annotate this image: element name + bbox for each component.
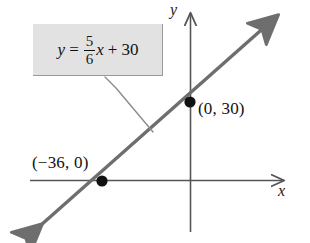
graph-figure: y = 5 6 x + 30 y x (0, 30) (−36, 0) bbox=[0, 0, 310, 243]
point-dot-y-intercept bbox=[184, 96, 195, 107]
point-label-y-intercept: (0, 30) bbox=[198, 100, 245, 117]
point-dot-x-intercept bbox=[96, 175, 107, 186]
fraction-denominator: 6 bbox=[84, 51, 96, 67]
callout-leader-line bbox=[105, 77, 153, 132]
equation-variable: x bbox=[96, 40, 104, 60]
equation-plus-sign: + bbox=[108, 40, 118, 60]
equation-fraction: 5 6 bbox=[84, 34, 96, 67]
point-label-x-intercept: (−36, 0) bbox=[32, 154, 89, 171]
equation-lhs: y bbox=[58, 40, 66, 60]
y-axis-label: y bbox=[170, 2, 177, 18]
equation-callout-box: y = 5 6 x + 30 bbox=[33, 24, 163, 76]
equation-text: y = 5 6 x + 30 bbox=[33, 24, 163, 76]
equation-equals-sign: = bbox=[69, 40, 79, 60]
fraction-numerator: 5 bbox=[84, 34, 96, 50]
equation-constant: 30 bbox=[121, 40, 138, 60]
x-axis-label: x bbox=[278, 183, 285, 199]
